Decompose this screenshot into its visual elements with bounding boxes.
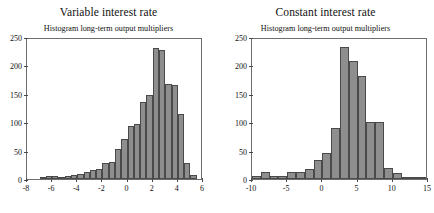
histogram-bar xyxy=(375,122,384,179)
y-axis-label: 100 xyxy=(0,119,22,128)
x-axis-label: -4 xyxy=(73,184,80,193)
y-axis-label: 50 xyxy=(0,147,22,156)
histogram-bar xyxy=(270,176,279,179)
x-axis-tick xyxy=(26,178,27,182)
histogram-bar xyxy=(410,177,419,179)
y-axis-tick xyxy=(249,66,253,67)
y-axis-label: 150 xyxy=(225,90,247,99)
panel-variable-interest-rate: Variable interest rate Histogram long-te… xyxy=(0,0,217,213)
y-axis-label: 50 xyxy=(225,147,247,156)
x-axis-tick xyxy=(76,178,77,182)
histogram-bar xyxy=(402,177,411,179)
x-axis-tick xyxy=(286,178,287,182)
x-axis-tick xyxy=(101,178,102,182)
panel-subtitle: Histogram long-term output multipliers xyxy=(0,24,217,33)
y-axis-tick xyxy=(24,152,28,153)
histogram-bar xyxy=(419,177,426,179)
y-axis-tick xyxy=(249,38,253,39)
x-axis-tick xyxy=(357,178,358,182)
x-axis-label: 0 xyxy=(125,184,129,193)
panel-title: Variable interest rate xyxy=(0,6,217,18)
histogram-bar xyxy=(314,160,323,179)
x-axis-tick xyxy=(202,178,203,182)
y-axis-label: 150 xyxy=(0,90,22,99)
histogram-bar xyxy=(393,173,402,179)
histogram-bar xyxy=(261,172,270,179)
y-axis-tick xyxy=(24,66,28,67)
x-axis-label: 15 xyxy=(423,184,431,193)
y-axis-tick xyxy=(249,95,253,96)
x-axis-label: 2 xyxy=(150,184,154,193)
y-axis-tick xyxy=(24,95,28,96)
histogram-bar xyxy=(305,169,314,179)
y-axis-tick xyxy=(24,123,28,124)
x-axis-tick xyxy=(427,178,428,182)
x-axis-tick xyxy=(392,178,393,182)
histogram-bar xyxy=(296,172,305,179)
y-axis-label: 200 xyxy=(0,62,22,71)
x-axis-tick xyxy=(152,178,153,182)
y-axis-label: 0 xyxy=(225,176,247,185)
x-axis-label: 0 xyxy=(319,184,323,193)
x-axis-label: -10 xyxy=(246,184,257,193)
y-axis-tick xyxy=(249,152,253,153)
histogram-bar xyxy=(322,153,331,179)
x-axis-label: 6 xyxy=(200,184,204,193)
y-axis-label: 100 xyxy=(225,119,247,128)
histogram-bar xyxy=(366,122,375,179)
y-axis-label: 250 xyxy=(225,34,247,43)
histogram-bar xyxy=(340,47,349,179)
bars-constant xyxy=(252,39,426,179)
panel-title: Constant interest rate xyxy=(217,6,434,18)
x-axis-tick xyxy=(251,178,252,182)
histogram-figure: Variable interest rate Histogram long-te… xyxy=(0,0,434,213)
histogram-bar xyxy=(358,76,367,179)
histogram-bar xyxy=(331,128,340,179)
y-axis-label: 250 xyxy=(0,34,22,43)
x-axis-label: 10 xyxy=(388,184,396,193)
plot-area-variable xyxy=(26,38,202,180)
histogram-bar xyxy=(252,176,261,179)
y-axis-tick xyxy=(249,123,253,124)
x-axis-tick xyxy=(127,178,128,182)
x-axis-tick xyxy=(321,178,322,182)
x-axis-label: -2 xyxy=(98,184,105,193)
x-axis-tick xyxy=(177,178,178,182)
x-axis-label: -8 xyxy=(23,184,30,193)
panel-constant-interest-rate: Constant interest rate Histogram long-te… xyxy=(217,0,434,213)
x-axis-label: -6 xyxy=(48,184,55,193)
bars-variable xyxy=(27,39,201,179)
y-axis-label: 0 xyxy=(0,176,22,185)
x-axis-label: 4 xyxy=(175,184,179,193)
y-axis-tick xyxy=(24,38,28,39)
x-axis-label: 5 xyxy=(355,184,359,193)
histogram-bar xyxy=(349,61,358,179)
histogram-bar xyxy=(190,175,196,179)
histogram-bar xyxy=(287,172,296,179)
x-axis-tick xyxy=(51,178,52,182)
panel-subtitle: Histogram long-term output multipliers xyxy=(217,24,434,33)
x-axis-label: -5 xyxy=(283,184,290,193)
y-axis-label: 200 xyxy=(225,62,247,71)
plot-area-constant xyxy=(251,38,427,180)
